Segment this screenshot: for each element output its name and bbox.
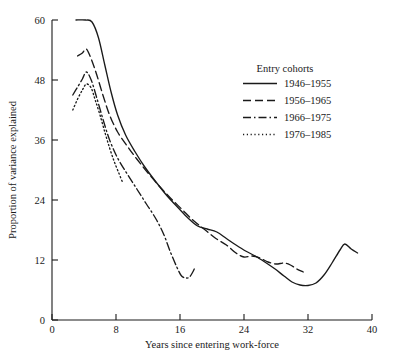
x-axis-tick-labels: 0816243240 bbox=[49, 324, 377, 335]
legend-entries: 1946–19551956–19651966–19751976–1985 bbox=[243, 78, 331, 140]
y-tick-label: 0 bbox=[40, 315, 45, 326]
y-tick-label: 12 bbox=[35, 255, 46, 266]
x-tick-label: 24 bbox=[239, 324, 250, 335]
series-line-4 bbox=[73, 84, 123, 182]
chart-figure: 01224364860 0816243240 Years since enter… bbox=[0, 0, 404, 363]
y-tick-label: 36 bbox=[35, 135, 46, 146]
legend-label: 1946–1955 bbox=[284, 78, 331, 89]
legend-label: 1976–1985 bbox=[284, 129, 331, 140]
x-tick-label: 8 bbox=[113, 324, 118, 335]
y-axis-ticks bbox=[52, 20, 58, 320]
series-line-2 bbox=[78, 49, 304, 272]
legend-title: Entry cohorts bbox=[257, 63, 314, 74]
x-axis-ticks bbox=[52, 314, 372, 320]
y-axis-tick-labels: 01224364860 bbox=[35, 15, 46, 326]
y-tick-label: 24 bbox=[35, 195, 46, 206]
legend-entry[interactable]: 1946–1955 bbox=[243, 78, 331, 89]
line-chart: 01224364860 0816243240 Years since enter… bbox=[0, 0, 404, 363]
y-tick-label: 48 bbox=[35, 75, 46, 86]
legend-label: 1966–1975 bbox=[284, 112, 331, 123]
x-tick-label: 16 bbox=[175, 324, 186, 335]
x-tick-label: 0 bbox=[49, 324, 54, 335]
legend-entry[interactable]: 1956–1965 bbox=[243, 95, 331, 106]
x-axis-title: Years since entering work-force bbox=[145, 339, 279, 350]
x-tick-label: 40 bbox=[367, 324, 378, 335]
y-axis-title: Proportion of variance explained bbox=[7, 100, 18, 239]
legend-entry[interactable]: 1966–1975 bbox=[243, 112, 331, 123]
series-line-3 bbox=[73, 72, 195, 278]
chart-legend: Entry cohorts 1946–19551956–19651966–197… bbox=[243, 63, 331, 140]
y-tick-label: 60 bbox=[35, 15, 46, 26]
x-tick-label: 32 bbox=[303, 324, 314, 335]
legend-label: 1956–1965 bbox=[284, 95, 331, 106]
data-series-group bbox=[73, 20, 358, 286]
series-line-1 bbox=[76, 20, 358, 286]
legend-entry[interactable]: 1976–1985 bbox=[243, 129, 331, 140]
